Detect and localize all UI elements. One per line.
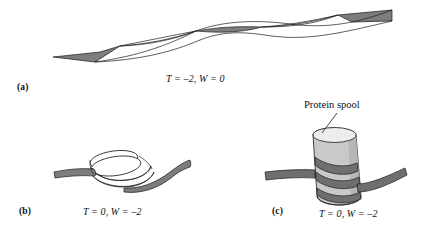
panel-formula-c: T = 0, W = –2 xyxy=(319,208,378,219)
ribbon-segment-filled-right xyxy=(338,10,392,22)
spool-tail-right xyxy=(357,168,407,192)
protein-spool-annotation: Protein spool xyxy=(304,99,360,110)
panel-formula-a: T = –2, W = 0 xyxy=(166,73,225,84)
panel-formula-b: T = 0, W = –2 xyxy=(83,206,142,217)
coil-tail-left xyxy=(54,169,96,178)
spool-top-face xyxy=(313,128,356,143)
figure-artwork xyxy=(0,0,444,234)
panel-label-a: (a) xyxy=(17,82,29,92)
spool-tail-left xyxy=(265,170,315,180)
panel-b-coil xyxy=(54,148,191,193)
panel-a-ribbon xyxy=(53,10,392,62)
panel-label-c: (c) xyxy=(272,206,283,216)
ribbon-segment-open-1 xyxy=(120,31,196,46)
topology-figure: (a) T = –2, W = 0 (b) T = 0, W = –2 (c) … xyxy=(0,0,444,234)
panel-label-b: (b) xyxy=(19,206,31,216)
panel-c-spool-assembly xyxy=(265,113,407,205)
